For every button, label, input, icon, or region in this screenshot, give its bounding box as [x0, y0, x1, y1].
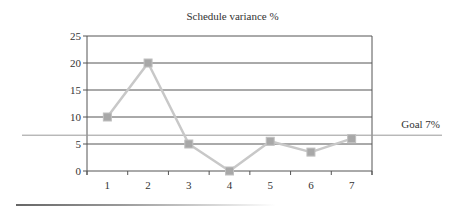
x-tick-label: 4	[227, 179, 233, 191]
y-tick-label: 0	[76, 165, 82, 177]
data-point-marker	[185, 140, 193, 148]
y-tick-label: 15	[70, 84, 82, 96]
y-tick-label: 5	[76, 138, 82, 150]
x-tick-label: 3	[186, 179, 192, 191]
goal-label: Goal 7%	[401, 118, 440, 130]
data-point-marker	[226, 167, 234, 175]
data-point-marker	[307, 148, 315, 156]
data-point-marker	[348, 135, 356, 143]
data-point-marker	[266, 137, 274, 145]
data-point-marker	[144, 59, 152, 67]
data-point-marker	[103, 113, 111, 121]
x-tick-label: 5	[267, 179, 273, 191]
y-tick-label: 25	[70, 30, 82, 42]
x-tick-label: 6	[308, 179, 314, 191]
bottom-divider	[16, 204, 276, 206]
y-tick-label: 20	[70, 57, 82, 69]
line-chart: 05101520251234567Goal 7%	[0, 0, 465, 206]
x-tick-label: 1	[105, 179, 111, 191]
x-tick-label: 2	[145, 179, 151, 191]
x-tick-label: 7	[349, 179, 355, 191]
y-tick-label: 10	[70, 111, 82, 123]
